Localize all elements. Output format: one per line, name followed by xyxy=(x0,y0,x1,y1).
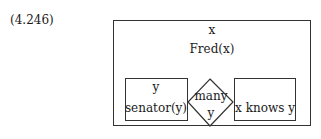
quantifier-variable: y xyxy=(208,106,215,120)
right-condition: x knows y xyxy=(235,101,295,115)
quantifier-label: many xyxy=(194,89,227,103)
